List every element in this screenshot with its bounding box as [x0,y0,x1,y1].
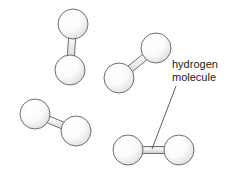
hydrogen-atom [61,116,91,146]
hydrogen-atom [141,33,171,63]
hydrogen-atom [58,9,88,39]
hydrogen-atom [104,63,134,93]
atom-sphere [55,55,85,85]
atom-sphere [164,135,194,165]
hydrogen-molecule-label-line1: hydrogen [172,58,218,70]
atom-sphere [141,33,171,63]
hydrogen-atom [164,135,194,165]
diagram-canvas: hydrogen molecule [0,0,232,177]
atom-sphere [113,135,143,165]
hydrogen-atom [55,55,85,85]
atom-sphere [20,99,50,129]
hydrogen-atom [113,135,143,165]
atom-sphere [58,9,88,39]
atom-sphere [61,116,91,146]
hydrogen-molecules-diagram: hydrogen molecule [0,0,232,177]
hydrogen-molecule-label-line2: molecule [172,71,216,83]
hydrogen-atom [20,99,50,129]
atom-sphere [104,63,134,93]
